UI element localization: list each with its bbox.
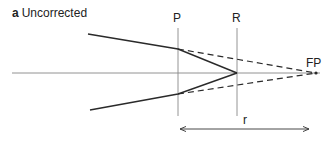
- ray-diagram: [0, 0, 330, 142]
- ray-lower: [90, 73, 237, 110]
- focal-point: [314, 71, 317, 74]
- ray-upper: [88, 34, 237, 73]
- dashed-ray-upper: [178, 49, 316, 73]
- dashed-ray-lower: [178, 73, 316, 94]
